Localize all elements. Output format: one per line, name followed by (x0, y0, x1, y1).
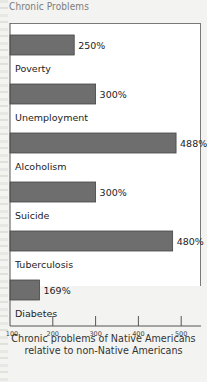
bar-diabetes (10, 280, 40, 300)
category-label-tuberculosis: Tuberculosis (14, 259, 73, 270)
bar-tuberculosis (10, 231, 173, 251)
category-label-poverty: Poverty (15, 63, 51, 74)
bar-suicide (10, 182, 96, 202)
category-label-alcoholism: Alcoholism (15, 161, 67, 172)
value-label-suicide: 300% (100, 187, 127, 198)
caption-line-1: Chronic problems of Native Americans (0, 333, 207, 345)
value-label-diabetes: 169% (44, 285, 71, 296)
value-label-tuberculosis: 480% (177, 236, 204, 247)
category-label-suicide: Suicide (15, 210, 50, 221)
bar-unemployment (10, 84, 96, 104)
category-label-unemployment: Unemployment (15, 112, 88, 123)
bar-alcoholism (10, 133, 176, 153)
value-label-poverty: 250% (78, 40, 105, 51)
value-label-unemployment: 300% (100, 89, 127, 100)
caption-line-2: relative to non-Native Americans (0, 345, 207, 357)
value-label-alcoholism: 488% (180, 138, 207, 149)
category-label-diabetes: Diabetes (15, 308, 57, 319)
bar-poverty (10, 35, 74, 55)
x-axis-caption: Chronic problems of Native Americans rel… (0, 333, 207, 357)
bar-chart: 250%Poverty300%Unemployment488%Alcoholis… (0, 0, 207, 382)
